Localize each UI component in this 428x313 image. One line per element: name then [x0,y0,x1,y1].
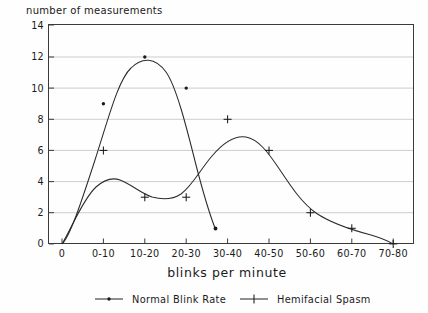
series-line-normal-blink-rate [62,60,215,244]
y-tick-label-14: 14 [31,20,44,31]
x-tick-label-6: 50-60 [296,248,325,259]
y-axis-ticks: 0 2 4 6 8 10 12 14 [31,20,54,250]
marker-plus-0-10 [99,146,107,154]
y-axis-title: number of measurements [26,5,163,16]
series-endpoint-normal-blink-rate [214,227,218,231]
x-tick-label-7: 60-70 [337,248,366,259]
gridlines [49,57,413,213]
x-tick-label-0: 0 [59,248,65,259]
y-tick-label-10: 10 [31,83,44,94]
chart-canvas: number of measurements 0 2 4 6 8 10 [0,0,428,313]
x-axis-title: blinks per minute [167,265,287,280]
legend-entry-hemifacial-spasm[interactable]: Hemifacial Spasm [240,294,371,305]
x-tick-label-8: 70-80 [379,248,408,259]
marker-plus-40-50 [265,146,273,154]
x-tick-label-2: 10-20 [130,248,159,259]
legend-label-normal-blink-rate: Normal Blink Rate [132,294,226,305]
y-tick-label-0: 0 [38,238,44,249]
marker-plus-10-20 [141,193,149,201]
marker-plus-60-70 [348,224,356,232]
chart-figure: number of measurements 0 2 4 6 8 10 [0,0,428,313]
chart-legend: Normal Blink Rate Hemifacial Spasm [95,294,371,305]
y-tick-label-6: 6 [38,145,44,156]
y-tick-label-8: 8 [38,114,44,125]
x-axis-ticks: 0 0-10 10-20 20-30 30-40 40-50 50-60 60-… [59,239,408,259]
marker-dot-0-10 [102,102,105,105]
x-tick-label-4: 30-40 [213,248,242,259]
marker-plus-20-30 [182,193,190,201]
legend-label-hemifacial-spasm: Hemifacial Spasm [277,294,371,305]
series-line-hemifacial-spasm [62,137,393,244]
marker-dot-20-30 [185,86,188,89]
x-tick-label-1: 0-10 [92,248,115,259]
x-tick-label-5: 40-50 [254,248,283,259]
y-tick-label-2: 2 [38,207,44,218]
marker-plus-50-60 [306,209,314,217]
y-tick-label-4: 4 [38,176,44,187]
marker-plus-30-40 [224,115,232,123]
legend-entry-normal-blink-rate[interactable]: Normal Blink Rate [95,294,226,305]
legend-marker-dot [107,297,110,300]
marker-dot-10-20 [143,55,146,58]
x-tick-label-3: 20-30 [172,248,201,259]
y-tick-label-12: 12 [31,51,44,62]
